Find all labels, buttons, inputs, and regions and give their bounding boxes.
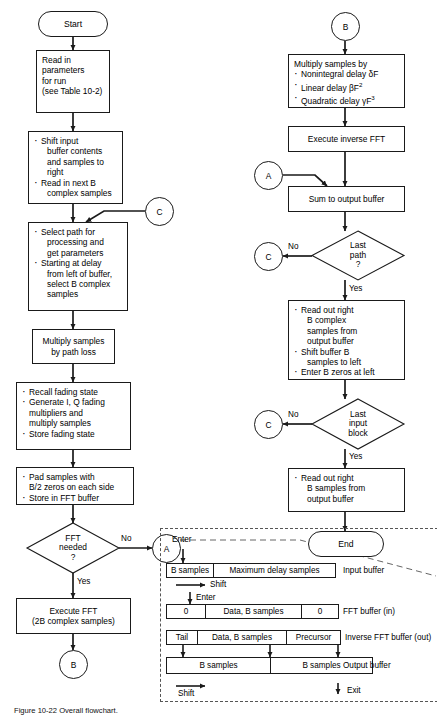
last-path-line-3: ? (356, 260, 361, 270)
output-buffer-row: B samples B samples (166, 657, 373, 674)
multiply-path-loss-line-1: Multiply samples (43, 336, 105, 346)
output-buffer-label: Output buffer (343, 661, 391, 670)
read-complex-bullet-3: Enter B zeros at left (294, 367, 400, 377)
read-complex-b1b: B complex (301, 315, 400, 325)
start-terminator: Start (38, 11, 108, 37)
input-buffer-cell-1: Maximum delay samples (213, 563, 336, 578)
connector-b-inbound-right: B (331, 12, 360, 41)
multiply-path-loss-box: Multiply samples by path loss (32, 329, 115, 364)
shift-input-box: Shift input buffer contents and samples … (28, 131, 123, 204)
enter-mid-label: Enter (196, 593, 216, 602)
exit-label: Exit (347, 686, 361, 695)
connector-b-in-label: B (343, 22, 349, 32)
select-path-bullet-2: Starting at delay from left of buffer, s… (34, 258, 123, 300)
last-path-decision: Last path ? (312, 231, 404, 280)
fading-b3: Store fading state (29, 429, 95, 439)
figure-flowchart: Start Read in parameters for run (see Ta… (0, 0, 437, 715)
inverse-fft-cell-1: Data, B samples (197, 630, 287, 645)
fading-b2a: Generate I, Q fading (29, 397, 105, 407)
figure-caption: Figure 10-22 Overall flowchart. (14, 706, 118, 715)
fft-decision-no-label: No (121, 534, 131, 543)
read-complex-b3: Enter B zeros at left (301, 367, 375, 377)
input-buffer-cell-0: B samples (166, 563, 214, 578)
select-path-b1c: get parameters (41, 248, 123, 258)
pad-b1b: B/2 zeros on each side (29, 482, 129, 492)
select-path-b2c: select B complex (41, 279, 123, 289)
fft-buffer-in-cell-0: 0 (166, 604, 206, 619)
select-path-box: Select path for processing and get param… (28, 222, 128, 311)
read-b-bullet-1: Read out right B samples from output buf… (294, 473, 400, 504)
shift-input-b1b: buffer contents (41, 146, 118, 156)
multiply-samples-box: Multiply samples by Nonintegral delay δF… (288, 54, 405, 108)
read-complex-b2b: samples to left (301, 357, 400, 367)
fading-bullet-2: Generate I, Q fading multipliers and mul… (22, 397, 126, 428)
select-path-b1a: Select path for (41, 227, 95, 237)
inverse-fft-cell-0: Tail (166, 630, 198, 645)
connector-c-outbound-last-input: C (254, 410, 283, 439)
shift-input-b1d: right (41, 167, 118, 177)
last-input-line-3: block (348, 429, 368, 439)
read-complex-bullet-1: Read out right B complex samples from ou… (294, 305, 400, 347)
read-b-b1a: Read out right (301, 473, 354, 483)
read-complex-b2a: Shift buffer B (301, 347, 349, 357)
multiply-bullet-3: Quadratic delay γF3 (294, 93, 400, 106)
execute-fft-box: Execute FFT (2B complex samples) (16, 598, 131, 634)
enter-top-label: Enter (172, 535, 192, 544)
shift-input-b1a: Shift input (41, 136, 78, 146)
read-params-line-4: (see Table 10-2) (42, 86, 105, 96)
last-input-yes-label: Yes (349, 452, 362, 461)
connector-a-inbound-right: A (254, 161, 283, 190)
fft-decision-line-3: ? (71, 553, 76, 563)
fading-b2c: multiply samples (29, 418, 126, 428)
read-out-complex-box: Read out right B complex samples from ou… (288, 300, 405, 380)
multiply-samples-head: Multiply samples by (294, 59, 400, 69)
shift-input-bullet-2: Read in next B complex samples (34, 178, 118, 199)
select-path-b2a: Starting at delay (41, 258, 102, 268)
pad-b2: Store in FFT buffer (29, 493, 99, 503)
select-path-bullet-1: Select path for processing and get param… (34, 227, 123, 258)
read-out-b-samples-box: Read out right B samples from output buf… (288, 468, 405, 512)
multiply-b3-sup: 3 (371, 94, 374, 101)
fading-state-box: Recall fading state Generate I, Q fading… (16, 382, 131, 450)
read-params-line-3: for run (42, 76, 105, 86)
fading-bullet-1: Recall fading state (22, 387, 126, 397)
fft-buffer-in-label: FFT buffer (in) (343, 607, 395, 616)
pad-samples-box: Pad samples with B/2 zeros on each side … (16, 467, 134, 505)
read-parameters-box: Read in parameters for run (see Table 10… (36, 50, 110, 113)
select-path-b1b: processing and (41, 237, 123, 247)
shift-input-b2a: Read in next B (41, 178, 96, 188)
connector-c-last-path-label: C (265, 252, 271, 262)
execute-fft-line-2: (2B complex samples) (32, 616, 115, 626)
fading-b2b: multipliers and (29, 408, 126, 418)
shift-input-bullet-1: Shift input buffer contents and samples … (34, 136, 118, 178)
shift-top-label: Shift (210, 580, 226, 589)
fading-b1: Recall fading state (29, 387, 98, 397)
input-buffer-row: B samples Maximum delay samples (166, 563, 336, 578)
multiply-b3-pre: Quadratic delay γF (301, 96, 371, 106)
read-params-line-2: parameters (42, 65, 105, 75)
pad-b1a: Pad samples with (29, 472, 95, 482)
pad-bullet-1: Pad samples with B/2 zeros on each side (22, 472, 129, 493)
connector-c-inbound-left: C (145, 197, 174, 226)
fft-decision-yes-label: Yes (77, 577, 90, 586)
read-complex-b1a: Read out right (301, 305, 354, 315)
last-input-no-label: No (288, 410, 298, 419)
inverse-fft-buffer-row: Tail Data, B samples Precursor (166, 630, 341, 645)
inverse-fft-cell-2: Precursor (286, 630, 341, 645)
sum-output-buffer-label: Sum to output buffer (309, 194, 385, 204)
select-path-b2d: samples (41, 289, 123, 299)
read-b-b1b: B samples from (301, 483, 400, 493)
last-path-no-label: No (288, 242, 298, 251)
read-complex-b1d: output buffer (301, 336, 400, 346)
connector-c-outbound-last-path: C (254, 242, 283, 271)
fft-buffer-in-row: 0 Data, B samples 0 (166, 604, 339, 619)
execute-inverse-fft-label: Execute inverse FFT (308, 134, 385, 144)
multiply-path-loss-line-2: by path loss (43, 347, 105, 357)
multiply-bullet-1: Nonintegral delay δF (294, 69, 400, 79)
start-label: Start (64, 19, 82, 29)
multiply-b2-sup: 2 (359, 81, 362, 88)
fading-bullet-3: Store fading state (22, 429, 126, 439)
fft-needed-decision: FFT needed ? (27, 523, 119, 573)
shift-bottom-label: Shift (178, 689, 194, 698)
connector-b-label: B (71, 660, 77, 670)
